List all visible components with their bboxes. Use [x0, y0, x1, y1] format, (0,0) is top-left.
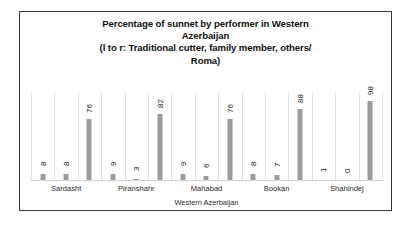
bar-value-label: 8	[31, 156, 55, 172]
x-axis-category-label: Piranshahr	[101, 184, 171, 193]
chart-figure: Percentage of sunnet by performer in Wes…	[19, 11, 392, 211]
bar-value-label: 3	[124, 161, 148, 177]
bar-value-label: 8	[241, 156, 265, 172]
chart-title-line-4: Roma)	[28, 55, 383, 67]
chart-title-line-1: Percentage of sunnet by performer in Wes…	[28, 18, 383, 30]
chart-title: Percentage of sunnet by performer in Wes…	[28, 18, 383, 67]
plot-area: 88769382967687881098	[31, 93, 382, 181]
x-axis-line	[31, 180, 382, 181]
bar-value-label: 82	[148, 96, 172, 112]
bar-slot[interactable]: 98	[359, 93, 382, 181]
bar-value-label: 1	[311, 162, 335, 178]
bar-slot[interactable]: 1	[312, 93, 335, 181]
bar-value-label: 6	[194, 158, 218, 174]
bar-value-label: 9	[101, 156, 125, 172]
bar-value-label: 98	[358, 83, 382, 99]
bar-slot[interactable]: 8	[31, 93, 54, 181]
x-axis-category-label: Sardasht	[31, 184, 101, 193]
bar-value-label: 88	[288, 91, 312, 107]
bar-slot[interactable]: 9	[171, 93, 194, 181]
bar[interactable]	[157, 114, 162, 181]
chart-title-line-3: (l to r: Traditional cutter, family memb…	[28, 42, 383, 54]
bar-slot[interactable]: 76	[78, 93, 101, 181]
bar[interactable]	[368, 101, 373, 181]
bar-value-label: 76	[218, 101, 242, 117]
bar[interactable]	[298, 109, 303, 181]
bar-series: 88769382967687881098	[31, 93, 382, 181]
x-axis-title: Western Azerbaijan	[31, 198, 382, 207]
bar-slot[interactable]: 0	[335, 93, 358, 181]
bar-slot[interactable]: 76	[218, 93, 241, 181]
bar-slot[interactable]: 6	[195, 93, 218, 181]
bar-slot[interactable]: 9	[101, 93, 124, 181]
x-axis-category-label: Mahabad	[172, 184, 242, 193]
bar-slot[interactable]: 88	[288, 93, 311, 181]
bar-slot[interactable]: 3	[125, 93, 148, 181]
bar[interactable]	[227, 119, 232, 181]
bar-value-label: 8	[54, 156, 78, 172]
x-axis-category-label: Bookan	[242, 184, 312, 193]
bar-value-label: 7	[265, 157, 289, 173]
x-axis-category-label: Shahindej	[312, 184, 382, 193]
gridline	[382, 93, 383, 181]
bar-slot[interactable]: 8	[242, 93, 265, 181]
bar-slot[interactable]: 7	[265, 93, 288, 181]
x-axis-category-labels: SardashtPiranshahrMahabadBookanShahindej	[31, 184, 382, 196]
bar-value-label: 0	[335, 163, 359, 179]
bar-value-label: 76	[77, 101, 101, 117]
bar-slot[interactable]: 82	[148, 93, 171, 181]
bar[interactable]	[87, 119, 92, 181]
bar-slot[interactable]: 8	[54, 93, 77, 181]
bar-value-label: 9	[171, 156, 195, 172]
chart-title-line-2: Azerbaijan	[28, 30, 383, 42]
